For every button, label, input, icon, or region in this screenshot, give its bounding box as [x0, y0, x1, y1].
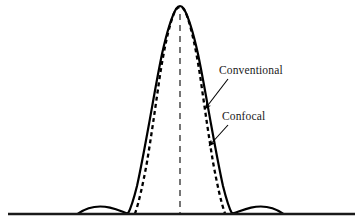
psf-plot-canvas: Conventional Confocal — [0, 0, 363, 224]
psf-comparison-figure: Conventional Confocal — [0, 0, 363, 224]
confocal-label: Confocal — [222, 110, 265, 122]
conventional-label: Conventional — [219, 64, 283, 76]
conventional-leader-arrow — [205, 79, 228, 109]
